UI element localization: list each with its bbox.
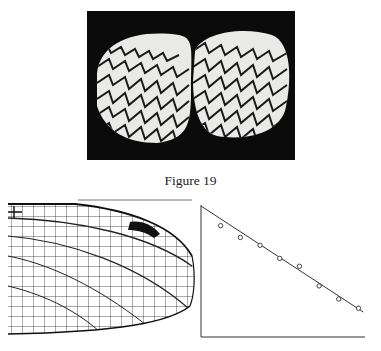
wing-venation-figure xyxy=(0,196,198,341)
scatter-chart xyxy=(190,196,381,351)
shell-illustration xyxy=(87,11,295,160)
shell-photo xyxy=(87,11,295,160)
data-point xyxy=(278,256,282,260)
scatter-plot xyxy=(190,196,381,351)
data-point xyxy=(218,223,222,227)
wing-illustration xyxy=(0,196,198,341)
figure-caption: Figure 19 xyxy=(0,173,381,189)
data-points xyxy=(218,223,360,310)
data-point xyxy=(297,264,301,268)
data-point xyxy=(258,243,262,247)
data-point xyxy=(337,297,341,301)
data-point xyxy=(238,235,242,239)
data-point xyxy=(317,284,321,288)
data-point xyxy=(356,306,360,310)
